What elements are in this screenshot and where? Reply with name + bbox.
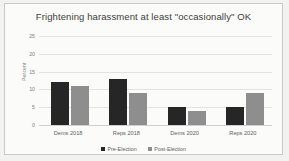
bar-pre-election [226,107,244,125]
legend-label: Post-Election [154,146,186,152]
bar-pre-election [51,82,69,125]
bar-post-election [246,93,264,125]
legend-swatch-icon [148,147,152,151]
chart-container: Frightening harassment at least "occasio… [4,3,283,155]
bar-post-election [188,111,206,125]
y-axis-tick-label: 25 [29,33,35,39]
legend-item[interactable]: Post-Election [148,146,186,152]
x-axis-category-label: Reps 2018 [97,130,155,136]
y-axis-tick-label: 5 [32,104,35,110]
y-axis-tick-label: 0 [32,122,35,128]
x-axis-category-label: Dems 2020 [156,130,214,136]
bar-group: Reps 2020 [214,36,272,125]
y-axis-tick-label: 10 [29,86,35,92]
plot-area: 0510152025 Dems 2018Reps 2018Dems 2020Re… [39,36,272,126]
x-axis-category-label: Dems 2018 [39,130,97,136]
x-axis-line [39,125,272,126]
bar-pre-election [168,107,186,125]
bar-group: Dems 2018 [39,36,97,125]
legend-item[interactable]: Pre-Election [101,146,137,152]
bar-post-election [71,86,89,125]
chart-title: Frightening harassment at least "occasio… [5,11,282,22]
bar-post-election [129,93,147,125]
y-axis-tick-label: 15 [29,69,35,75]
bar-group: Reps 2018 [97,36,155,125]
legend-swatch-icon [101,147,105,151]
bar-pre-election [109,79,127,125]
chart-legend: Pre-ElectionPost-Election [5,146,282,152]
x-axis-category-label: Reps 2020 [214,130,272,136]
bar-group: Dems 2020 [156,36,214,125]
y-axis-tick-label: 20 [29,51,35,57]
legend-label: Pre-Election [107,146,136,152]
y-axis-title: Percent [21,62,27,81]
